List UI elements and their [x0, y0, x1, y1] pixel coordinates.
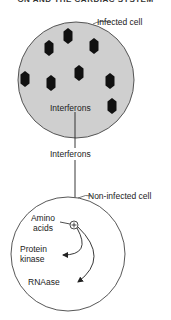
amino-acids-label: Amino acids [26, 213, 60, 233]
protein-kinase-label: Protein kinase [20, 244, 47, 264]
protein-kinase-line1: Protein [20, 244, 47, 254]
infected-cell [18, 21, 134, 138]
interferons-connector-label: Interferons [50, 149, 91, 159]
infected-cell-label: Infected cell [97, 17, 142, 27]
interferons-inner-label: Interferons [50, 103, 91, 113]
non-infected-cell-label: Non-infected cell [88, 191, 151, 201]
diagram-canvas [0, 0, 171, 320]
protein-kinase-line2: kinase [20, 254, 47, 264]
amino-acids-line1: Amino [26, 213, 60, 223]
amino-acids-line2: acids [26, 223, 60, 233]
rnaase-label: RNAase [28, 277, 60, 287]
